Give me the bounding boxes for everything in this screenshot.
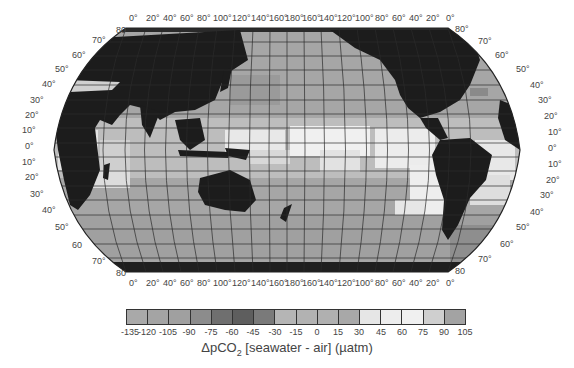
lon-label: 20° (146, 278, 160, 288)
lat-label: 30° (540, 190, 554, 200)
lat-label: 60° (500, 239, 514, 249)
lon-label: 0° (129, 13, 138, 23)
lat-label: 80 (116, 25, 126, 35)
lat-label: 40° (42, 205, 56, 215)
lat-label: 50° (55, 64, 69, 74)
lat-label: 40° (530, 207, 544, 217)
lat-label: 60° (495, 50, 509, 60)
colorbar-title: ΔpCO2 [seawater - air] (µatm) (0, 340, 574, 358)
colorbar-box (212, 310, 233, 324)
colorbar-title-suffix: [seawater - air] (µatm) (242, 340, 373, 355)
colorbar-tick: 15 (333, 327, 343, 337)
lon-label: 0° (446, 13, 455, 23)
colorbar-box (402, 310, 423, 324)
colorbar-tick: -60 (225, 327, 238, 337)
colorbar-tick: 30 (354, 327, 364, 337)
colorbar-tick: 60 (397, 327, 407, 337)
lat-label: 10° (22, 157, 36, 167)
colorbar-tick: 75 (418, 327, 428, 337)
lon-label: 40° (409, 13, 423, 23)
colorbar (126, 309, 466, 325)
colorbar-box (148, 310, 169, 324)
lon-label: 140° (251, 13, 270, 23)
lon-label: 120° (337, 13, 356, 23)
longitude-labels-bottom: 0° 20° 40° 60° 80° 100° 120° 140° 160° 1… (0, 278, 574, 290)
lat-label: 50° (55, 222, 69, 232)
lat-label: 40° (530, 80, 544, 90)
lat-label: 60 (72, 240, 82, 250)
longitude-labels-top: 0° 20° 40° 60° 80° 100° 120° 140° 160° 1… (0, 13, 574, 25)
lon-label: 0° (129, 278, 138, 288)
lon-label: 40° (409, 278, 423, 288)
colorbar-tick: -135 (121, 327, 139, 337)
colorbar-tick: -30 (268, 327, 281, 337)
lat-label: 80° (455, 24, 469, 34)
lon-label: 140° (319, 13, 338, 23)
colorbar-box (169, 310, 190, 324)
colorbar-title-prefix: ΔpCO (201, 340, 236, 355)
colorbar-box (297, 310, 318, 324)
lon-label: 100° (213, 13, 232, 23)
lon-label: 40° (163, 278, 177, 288)
lon-label: 120° (232, 13, 251, 23)
colorbar-box (381, 310, 402, 324)
colorbar-box (339, 310, 360, 324)
lat-label: 50° (516, 222, 530, 232)
colorbar-tick: -120 (138, 327, 156, 337)
lon-label: 80° (375, 278, 389, 288)
colorbar-tick: -105 (159, 327, 177, 337)
lon-label: 80° (197, 13, 211, 23)
colorbar-tick: 0 (314, 327, 319, 337)
colorbar-tick: 45 (376, 327, 386, 337)
lat-label: 20° (25, 110, 39, 120)
lon-label: 140° (251, 278, 270, 288)
lat-label: 10° (548, 127, 562, 137)
lon-label: 20° (146, 13, 160, 23)
colorbar-box (127, 310, 148, 324)
lon-label: 80° (375, 13, 389, 23)
lat-label: 20° (544, 111, 558, 121)
colorbar-tick: -75 (204, 327, 217, 337)
lon-label: 80° (197, 278, 211, 288)
lat-label: 10° (548, 159, 562, 169)
colorbar-tick: -90 (182, 327, 195, 337)
lon-label: 100° (355, 278, 374, 288)
lat-label: 50° (516, 64, 530, 74)
colorbar-box (275, 310, 296, 324)
colorbar-box (424, 310, 445, 324)
lon-label: 20° (426, 278, 440, 288)
lon-label: 60° (392, 278, 406, 288)
lat-label: 30° (30, 95, 44, 105)
lat-label: 30° (30, 189, 44, 199)
colorbar-box (445, 310, 465, 324)
lat-label: 80 (116, 268, 126, 278)
lon-label: 20° (426, 13, 440, 23)
lon-label: 60° (180, 13, 194, 23)
lon-label: 100° (355, 13, 374, 23)
ocean-field (40, 20, 540, 280)
lat-label: 60° (72, 50, 86, 60)
lon-label: 180° (285, 278, 304, 288)
lon-label: 160° (302, 13, 321, 23)
colorbar-tick: -15 (289, 327, 302, 337)
colorbar-box (360, 310, 381, 324)
lon-label: 40° (163, 13, 177, 23)
colorbar-tick: 105 (457, 327, 472, 337)
colorbar-box (233, 310, 254, 324)
lon-label: 180° (285, 13, 304, 23)
lon-label: 100° (213, 278, 232, 288)
lat-label: 10° (22, 125, 36, 135)
lat-label: 70° (478, 254, 492, 264)
colorbar-box (318, 310, 339, 324)
lat-label: 0° (548, 143, 557, 153)
lat-label: 70° (478, 36, 492, 46)
lat-label: 30° (538, 95, 552, 105)
lat-label: 70° (92, 35, 106, 45)
colorbar-box (191, 310, 212, 324)
lon-label: 60° (180, 278, 194, 288)
lat-label: 70° (92, 256, 106, 266)
colorbar-box (254, 310, 275, 324)
lon-label: 160° (302, 278, 321, 288)
lat-label: 20° (546, 175, 560, 185)
colorbar-tick: -45 (246, 327, 259, 337)
